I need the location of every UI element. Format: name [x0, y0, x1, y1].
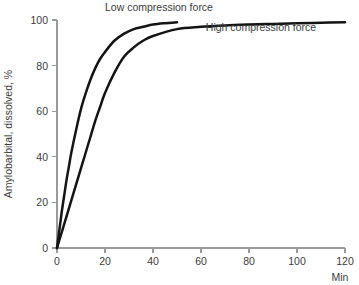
series-curves: [57, 22, 345, 248]
x-axis-ticks: 020406080100120: [54, 248, 354, 267]
y-axis-ticks: 020406080100: [30, 14, 57, 254]
y-tick-label: 0: [42, 242, 48, 254]
x-tick-label: 120: [336, 255, 354, 267]
axes: [57, 20, 345, 248]
x-tick-label: 20: [99, 255, 111, 267]
x-tick-label: 100: [288, 255, 306, 267]
series-label: Low compression force: [105, 1, 213, 13]
x-tick-label: 60: [195, 255, 207, 267]
series-label: High compression force: [206, 21, 316, 33]
chart-figure: 020406080100120 020406080100 Low compres…: [0, 0, 359, 285]
y-tick-label: 80: [36, 60, 48, 72]
series-curve: [57, 22, 177, 248]
y-tick-label: 40: [36, 151, 48, 163]
y-tick-label: 60: [36, 105, 48, 117]
x-tick-label: 40: [147, 255, 159, 267]
y-tick-label: 100: [30, 14, 48, 26]
x-tick-label: 0: [54, 255, 60, 267]
x-axis-unit-label: Min: [332, 271, 349, 283]
y-axis-title: Amylobarbital, dissolved, %: [2, 70, 14, 198]
y-tick-label: 20: [36, 196, 48, 208]
dissolution-line-chart: 020406080100120 020406080100 Low compres…: [0, 0, 359, 285]
x-tick-label: 80: [243, 255, 255, 267]
series-curve: [57, 22, 345, 248]
